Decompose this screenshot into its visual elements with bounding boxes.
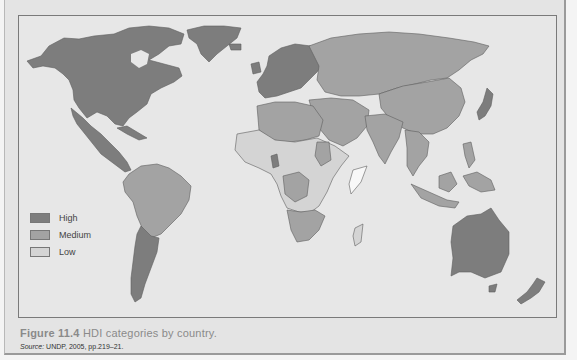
map-legend: High Medium Low	[30, 210, 91, 261]
world-map-svg	[19, 16, 557, 318]
region-south-america	[123, 164, 191, 238]
figure-number: Figure 11.4	[20, 327, 80, 339]
region-new-zealand	[517, 278, 545, 304]
legend-item-medium: Medium	[30, 227, 91, 243]
legend-swatch-medium	[30, 230, 50, 240]
region-south-asia	[365, 114, 403, 164]
region-russia	[309, 32, 489, 96]
legend-label-medium: Medium	[59, 230, 91, 240]
source-text: UNDP, 2005, pp.219–21.	[46, 343, 123, 350]
figure-source: Source: UNDP, 2005, pp.219–21.	[20, 343, 123, 350]
legend-label-high: High	[59, 213, 78, 223]
world-map	[18, 15, 557, 318]
region-japan	[477, 88, 493, 120]
source-label: Source:	[20, 343, 44, 350]
region-argentina-chile	[131, 226, 159, 302]
region-north-america	[27, 26, 184, 126]
figure-title: HDI categories by country.	[83, 327, 217, 339]
region-southern-africa	[287, 210, 325, 242]
legend-swatch-high	[30, 213, 50, 223]
region-australia	[451, 208, 509, 278]
legend-swatch-low	[30, 247, 50, 257]
region-southeast-asia	[405, 130, 429, 176]
legend-label-low: Low	[59, 247, 76, 257]
legend-item-high: High	[30, 210, 91, 226]
figure-caption: Figure 11.4 HDI categories by country.	[20, 327, 217, 339]
legend-item-low: Low	[30, 244, 91, 260]
